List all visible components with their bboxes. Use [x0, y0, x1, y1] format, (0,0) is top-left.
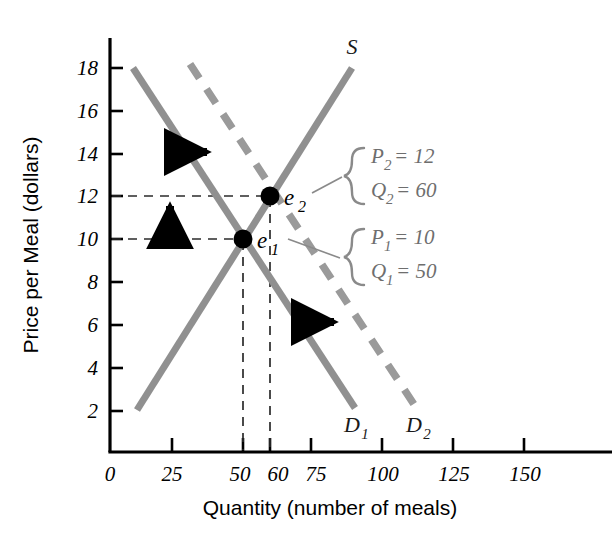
- annotation-e1-price-subscript: 1: [384, 238, 392, 254]
- x-axis-title: Quantity (number of meals): [203, 496, 457, 519]
- leader-line-e1: [288, 239, 340, 258]
- annotation-e1-quantity-subscript: 1: [386, 272, 394, 288]
- annotation-e1-price-value: = 10: [394, 225, 435, 249]
- annotation-e2-price-symbol: P: [370, 144, 384, 168]
- y-label-12: 12: [77, 184, 99, 208]
- annotation-e1-quantity-value: = 50: [396, 259, 437, 283]
- x-label-0: 0: [105, 462, 116, 486]
- curve-label-D1-subscript: 1: [361, 426, 369, 442]
- equilibrium-label-e2-subscript: 2: [298, 198, 306, 215]
- y-label-14: 14: [77, 142, 99, 166]
- annotation-leader-lines: [288, 177, 342, 258]
- annotation-e1-quantity-symbol: Q: [371, 259, 386, 283]
- equilibrium-label-e2: e: [284, 185, 294, 210]
- curve-label-D2-subscript: 2: [423, 426, 431, 442]
- y-label-2: 2: [88, 399, 99, 423]
- curve-label-S: S: [347, 34, 358, 59]
- leader-line-e2: [312, 177, 342, 193]
- annotation-braces: [344, 148, 364, 285]
- y-label-18: 18: [77, 56, 99, 80]
- annotation-e1: P 1 = 10 Q 1 = 50: [370, 225, 437, 288]
- annotation-e1-price-symbol: P: [370, 225, 384, 249]
- y-label-6: 6: [88, 313, 99, 337]
- brace-e1: [344, 229, 364, 285]
- x-label-75: 75: [306, 462, 327, 486]
- curve-label-D1-group: D 1: [343, 412, 369, 442]
- x-label-60: 60: [268, 462, 290, 486]
- curve-label-D1: D: [343, 412, 360, 437]
- x-label-125: 125: [438, 462, 470, 486]
- x-axis-ticks: [172, 438, 524, 452]
- chart-canvas: 18 16 14 12 10 8 6 4 2 0 25 50 60 75: [0, 0, 615, 539]
- annotation-e2-price-subscript: 2: [384, 157, 392, 173]
- y-axis-title: Price per Meal (dollars): [19, 136, 42, 353]
- curve-label-D2: D: [405, 412, 422, 437]
- annotation-e2-quantity-value: = 60: [396, 178, 437, 202]
- y-label-16: 16: [77, 99, 99, 123]
- x-label-100: 100: [367, 462, 399, 486]
- equilibrium-dot-e2: [261, 187, 280, 206]
- axes: [108, 38, 612, 452]
- annotation-e2-quantity-symbol: Q: [371, 178, 386, 202]
- annotation-e2: P 2 = 12 Q 2 = 60: [370, 144, 437, 207]
- x-label-150: 150: [509, 462, 541, 486]
- y-label-8: 8: [88, 270, 99, 294]
- x-label-50: 50: [230, 462, 252, 486]
- equilibrium-dot-e1: [234, 230, 253, 249]
- brace-e2: [344, 148, 364, 204]
- curve-label-D2-group: D 2: [405, 412, 431, 442]
- equilibrium-label-e1: e: [257, 228, 267, 253]
- y-axis-tick-labels: 18 16 14 12 10 8 6 4 2: [77, 56, 99, 423]
- annotation-e2-price-value: = 12: [394, 144, 435, 168]
- x-axis-tick-labels: 0 25 50 60 75 100 125 150: [105, 462, 542, 486]
- y-label-4: 4: [88, 356, 99, 380]
- equilibrium-label-e1-subscript: 1: [271, 241, 279, 258]
- y-label-10: 10: [77, 227, 99, 251]
- supply-demand-figure: 18 16 14 12 10 8 6 4 2 0 25 50 60 75: [0, 0, 615, 539]
- x-label-25: 25: [162, 462, 183, 486]
- annotation-e2-quantity-subscript: 2: [386, 191, 394, 207]
